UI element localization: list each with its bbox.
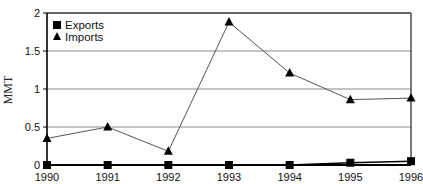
square-marker-icon <box>104 161 112 169</box>
y-tick-label: 1.5 <box>25 45 40 57</box>
triangle-marker-icon <box>346 95 355 104</box>
x-tick-label: 1994 <box>277 171 301 183</box>
square-marker-icon <box>346 159 354 167</box>
triangle-marker-icon <box>103 122 112 131</box>
triangle-marker-icon <box>285 68 294 77</box>
square-marker-icon <box>286 161 294 169</box>
x-tick-label: 1993 <box>217 171 241 183</box>
x-tick-label: 1996 <box>399 171 423 183</box>
y-tick-label: 1 <box>34 83 40 95</box>
line-chart: 00.511.52 1990199119921993199419951996 M… <box>0 0 423 184</box>
legend: Exports Imports <box>53 19 104 43</box>
square-marker-icon <box>407 157 415 165</box>
gridlines <box>47 51 411 127</box>
x-tick-label: 1990 <box>35 171 59 183</box>
y-tick-label: 2 <box>34 7 40 19</box>
legend-imports-triangle-icon <box>53 32 61 40</box>
square-marker-icon <box>43 161 51 169</box>
y-tick-label: 0.5 <box>25 121 40 133</box>
series-exports <box>43 157 415 169</box>
x-tick-label: 1991 <box>95 171 119 183</box>
x-axis-ticks: 1990199119921993199419951996 <box>35 171 423 183</box>
x-tick-label: 1992 <box>156 171 180 183</box>
triangle-marker-icon <box>407 93 416 102</box>
x-tick-label: 1995 <box>338 171 362 183</box>
square-marker-icon <box>164 161 172 169</box>
square-marker-icon <box>225 161 233 169</box>
legend-imports-label: Imports <box>65 31 104 43</box>
legend-exports-square-icon <box>53 21 61 29</box>
triangle-marker-icon <box>225 17 234 26</box>
legend-exports-label: Exports <box>65 19 104 31</box>
y-tick-label: 0 <box>34 159 40 171</box>
y-axis-label: MMT <box>1 75 15 104</box>
y-axis-ticks: 00.511.52 <box>25 7 47 171</box>
